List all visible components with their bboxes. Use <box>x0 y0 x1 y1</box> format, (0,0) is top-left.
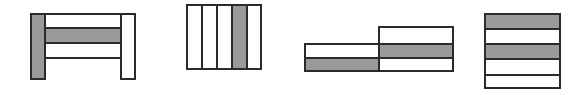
blank-cell <box>44 42 122 59</box>
blank-cell <box>378 57 454 72</box>
blank-cell <box>484 74 561 89</box>
blank-cell <box>120 13 136 80</box>
shaded-cell <box>304 57 380 72</box>
blank-cell <box>246 4 262 70</box>
